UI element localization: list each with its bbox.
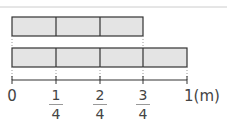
numerator: 2 <box>96 88 105 102</box>
unit-label: (m) <box>194 87 220 105</box>
denominator: 4 <box>96 107 105 121</box>
fraction-bar <box>93 104 107 105</box>
bar-three-quarters <box>12 17 143 36</box>
denominator: 4 <box>52 107 61 121</box>
numerator: 3 <box>139 88 148 102</box>
tick-label-1: 1(m) <box>184 89 220 104</box>
tick-label-one-quarter: 1 4 <box>49 88 63 121</box>
numerator: 1 <box>52 88 61 102</box>
fraction-bar <box>49 104 63 105</box>
tick-value: 1 <box>184 87 194 105</box>
fraction-bar <box>136 104 150 105</box>
tick-label-two-quarters: 2 4 <box>93 88 107 121</box>
number-line <box>12 76 187 84</box>
denominator: 4 <box>139 107 148 121</box>
tick-label-three-quarters: 3 4 <box>136 88 150 121</box>
tape-diagram <box>0 0 227 125</box>
tick-label-0: 0 <box>7 89 17 104</box>
bar-whole <box>12 48 187 67</box>
